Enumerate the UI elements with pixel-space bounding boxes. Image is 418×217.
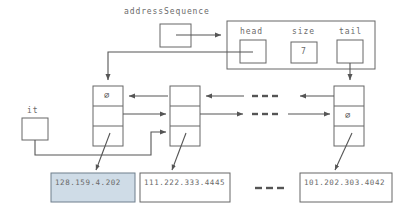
tail-field-label: tail	[339, 27, 362, 36]
node-head-null-glyph: ⌀	[104, 91, 109, 100]
size-field-label: size	[292, 27, 315, 36]
data-box-3-text: 101.202.303.4042	[304, 178, 388, 188]
diagram-canvas: addressSequence it head size tail 7 ⌀ ⌀ …	[0, 0, 418, 217]
head-field-label: head	[240, 27, 263, 36]
data-box-1-text: 128.159.4.202	[55, 178, 133, 188]
address-sequence-label: addressSequence	[124, 7, 210, 16]
it-box	[22, 118, 48, 140]
node-tail-null-glyph: ⌀	[345, 111, 350, 120]
it-label: it	[27, 106, 38, 115]
tail-slot	[337, 40, 363, 63]
size-value: 7	[301, 47, 306, 56]
data-box-2-text: 111.222.333.4445	[144, 178, 226, 188]
